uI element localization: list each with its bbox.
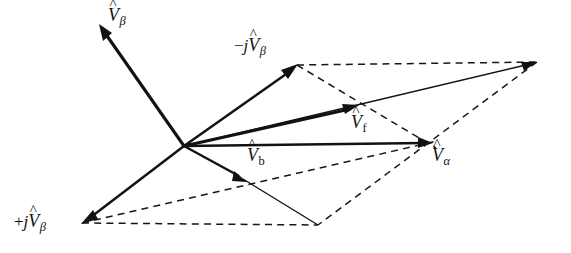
resultant-arrowhead bbox=[521, 62, 537, 71]
v-alpha-arrowhead bbox=[418, 137, 433, 148]
label-v-f: ^Vf bbox=[351, 113, 367, 135]
plus-sign: + bbox=[14, 212, 24, 231]
label-v-alpha: ^Vα bbox=[432, 146, 450, 168]
plus-j-v-beta-symbol: ^V bbox=[28, 212, 39, 230]
minus-j-v-beta-symbol: ^V bbox=[248, 36, 259, 54]
label-plus-j-v-beta: +j^Vβ bbox=[14, 212, 46, 234]
plus-j-v-beta-vector bbox=[91, 146, 184, 217]
hat-accent-icon: ^ bbox=[248, 137, 255, 152]
hat-accent-icon: ^ bbox=[352, 104, 359, 119]
v-beta-symbol: ^V bbox=[108, 6, 119, 24]
vector-diagram-canvas: ^Vβ −j^Vβ +j^Vβ ^Vf ^Vb ^Vα bbox=[0, 0, 571, 253]
solid-vectors bbox=[81, 24, 537, 225]
v-b-extension-line bbox=[243, 179, 318, 225]
v-b-vector bbox=[184, 146, 239, 176]
alpha-subscript: α bbox=[444, 154, 451, 168]
beta-subscript: β bbox=[260, 44, 266, 58]
v-beta-subscript: β bbox=[120, 14, 126, 28]
vector-diagram-svg bbox=[0, 0, 571, 253]
b-subscript: b bbox=[259, 154, 265, 168]
v-beta-vector bbox=[105, 33, 184, 146]
v-alpha-symbol: ^V bbox=[432, 146, 443, 164]
lower-parallel-edge bbox=[82, 223, 318, 225]
v-b-symbol: ^V bbox=[247, 146, 258, 164]
label-v-b: ^Vb bbox=[247, 146, 265, 168]
v-alpha-vector bbox=[184, 143, 424, 146]
minus-sign: − bbox=[234, 36, 244, 55]
hat-accent-icon: ^ bbox=[250, 27, 257, 42]
beta-subscript: β bbox=[40, 220, 46, 234]
label-v-beta: ^Vβ bbox=[108, 6, 126, 28]
hat-accent-icon: ^ bbox=[109, 0, 116, 12]
v-f-symbol: ^V bbox=[351, 113, 362, 131]
upper-parallel-edge bbox=[297, 62, 537, 65]
f-subscript: f bbox=[363, 121, 367, 135]
hat-accent-icon: ^ bbox=[30, 203, 37, 218]
label-minus-j-v-beta: −j^Vβ bbox=[234, 36, 266, 58]
upper-right-diagonal bbox=[297, 65, 436, 148]
hat-accent-icon: ^ bbox=[433, 137, 440, 152]
